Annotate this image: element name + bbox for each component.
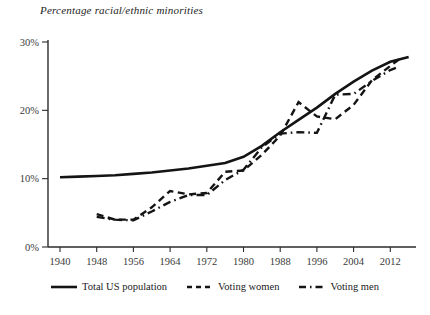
x-tick-label: 2012 bbox=[380, 256, 401, 267]
legend-label: Total US population bbox=[82, 282, 167, 293]
chart-figure: Percentage racial/ethnic minorities 0%10… bbox=[0, 0, 430, 315]
y-tick-label: 10% bbox=[20, 173, 40, 184]
legend-item: Voting women bbox=[187, 282, 279, 293]
x-tick-label: 2004 bbox=[343, 256, 365, 267]
x-tick-label: 1996 bbox=[306, 256, 327, 267]
x-tick-label: 1988 bbox=[270, 256, 291, 267]
y-axis: 0%10%20%30% bbox=[20, 37, 48, 253]
x-tick-label: 1980 bbox=[233, 256, 254, 267]
y-tick-label: 30% bbox=[20, 37, 40, 48]
x-axis: 1940194819561964197219801988199620042012 bbox=[48, 247, 416, 267]
legend-item: Voting men bbox=[299, 282, 379, 293]
legend-swatch-dashed bbox=[187, 282, 213, 292]
legend-label: Voting men bbox=[330, 282, 379, 293]
legend-label: Voting women bbox=[218, 282, 279, 293]
plot-canvas: 0%10%20%30% 1940194819561964197219801988… bbox=[0, 0, 430, 315]
x-tick-label: 1956 bbox=[123, 256, 144, 267]
series-line-voting-women bbox=[97, 59, 400, 220]
x-tick-label: 1948 bbox=[86, 256, 107, 267]
y-tick-label: 20% bbox=[20, 105, 40, 116]
x-tick-label: 1972 bbox=[196, 256, 217, 267]
chart-legend: Total US populationVoting womenVoting me… bbox=[0, 282, 430, 293]
legend-item: Total US population bbox=[51, 282, 167, 293]
legend-swatch-solid bbox=[51, 282, 77, 292]
data-series-group bbox=[60, 57, 409, 220]
series-line-voting-men bbox=[97, 67, 400, 221]
legend-swatch-dash-dot bbox=[299, 282, 325, 292]
x-tick-label: 1964 bbox=[160, 256, 182, 267]
x-tick-label: 1940 bbox=[50, 256, 71, 267]
series-line-total-us-population bbox=[60, 57, 409, 177]
y-tick-label: 0% bbox=[25, 242, 39, 253]
